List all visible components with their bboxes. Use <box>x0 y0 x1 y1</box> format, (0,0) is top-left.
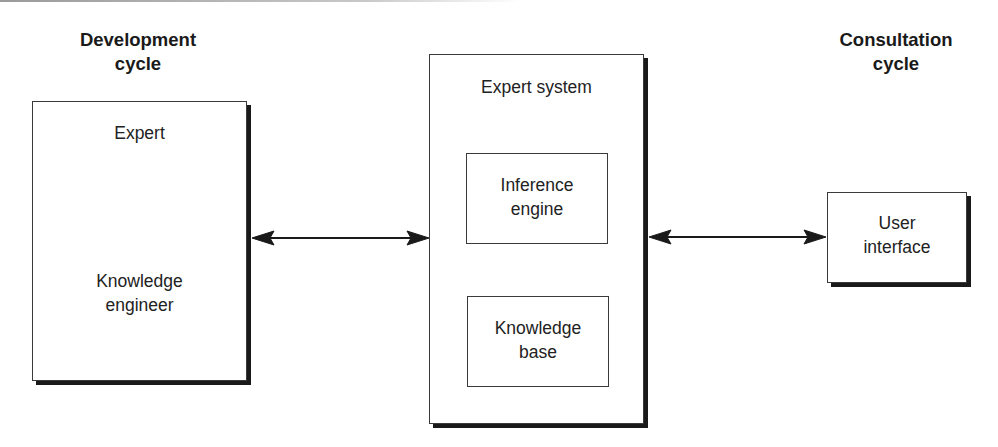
arrow-left-to-expert-system <box>252 231 429 245</box>
knowledge-engineer-label: Knowledge engineer <box>33 269 246 317</box>
heading-line-1: Development <box>58 28 218 52</box>
label-line-1: Knowledge <box>33 269 246 293</box>
user-interface-box: User interface <box>827 192 967 283</box>
expert-system-box: Expert system Inference engine Knowledge… <box>429 54 644 424</box>
development-cycle-heading: Development cycle <box>58 28 218 76</box>
arrow-expert-system-to-user-interface <box>649 230 826 244</box>
consultation-cycle-heading: Consultation cycle <box>816 28 976 76</box>
heading-line-2: cycle <box>58 52 218 76</box>
heading-line-1: Consultation <box>816 28 976 52</box>
inference-engine-label: Inference engine <box>467 173 607 221</box>
label-line-2: engineer <box>33 293 246 317</box>
inference-engine-box: Inference engine <box>466 153 608 244</box>
knowledge-base-box: Knowledge base <box>467 296 609 387</box>
label-line-1: Knowledge <box>468 316 608 340</box>
expert-label: Expert <box>33 121 246 145</box>
label-line-2: engine <box>467 197 607 221</box>
expert-text: Expert <box>33 121 246 145</box>
knowledge-base-label: Knowledge base <box>468 316 608 364</box>
top-rule-line <box>0 0 520 2</box>
arrowhead-right-icon <box>804 230 826 244</box>
expert-system-text: Expert system <box>430 75 643 99</box>
heading-line-2: cycle <box>816 52 976 76</box>
arrowhead-left-icon <box>252 231 274 245</box>
label-line-2: interface <box>828 235 966 259</box>
expert-knowledge-engineer-box: Expert Knowledge engineer <box>32 101 247 381</box>
label-line-2: base <box>468 340 608 364</box>
expert-system-title: Expert system <box>430 75 643 99</box>
arrowhead-left-icon <box>649 230 671 244</box>
label-line-1: Inference <box>467 173 607 197</box>
label-line-1: User <box>828 211 966 235</box>
user-interface-label: User interface <box>828 211 966 259</box>
arrowhead-right-icon <box>407 231 429 245</box>
